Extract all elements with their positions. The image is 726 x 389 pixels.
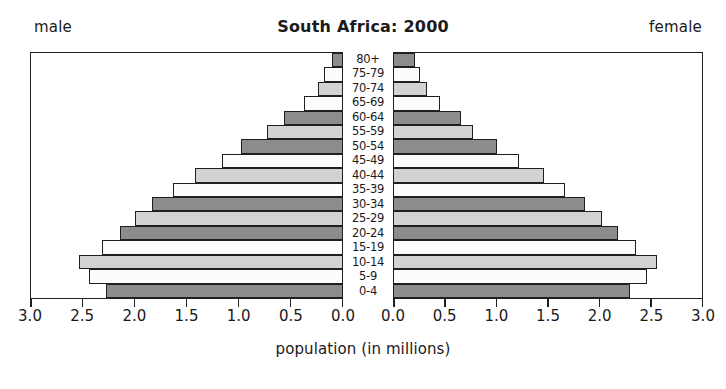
bar-male-25-29 xyxy=(135,211,342,225)
bar-male-70-74 xyxy=(318,82,342,96)
bar-row xyxy=(394,284,702,298)
tick-female-1.5 xyxy=(547,299,549,307)
bar-male-10-14 xyxy=(79,255,342,269)
chart-title: South Africa: 2000 xyxy=(0,17,726,36)
tick-label-male-1.0: 1.0 xyxy=(227,307,251,325)
male-bars-panel xyxy=(30,52,343,299)
bar-female-0-4 xyxy=(394,284,630,298)
bar-female-20-24 xyxy=(394,226,618,240)
bar-male-20-24 xyxy=(120,226,342,240)
bar-male-50-54 xyxy=(241,139,342,153)
bar-row xyxy=(31,53,342,67)
bar-row xyxy=(394,154,702,168)
bar-row xyxy=(394,168,702,182)
tick-label-male-3.0: 3.0 xyxy=(18,307,42,325)
tick-label-male-0.5: 0.5 xyxy=(279,307,303,325)
bar-row xyxy=(31,211,342,225)
tick-female-0.0 xyxy=(393,299,395,307)
population-pyramid-chart: male South Africa: 2000 female 80+75-797… xyxy=(0,0,726,389)
bar-male-0-4 xyxy=(106,284,342,298)
bar-row xyxy=(394,197,702,211)
tick-label-female-2.0: 2.0 xyxy=(588,307,612,325)
age-label-55-59: 55-59 xyxy=(343,125,393,140)
bar-row xyxy=(31,183,342,197)
age-label-75-79: 75-79 xyxy=(343,67,393,82)
bar-row xyxy=(394,255,702,269)
bar-male-30-34 xyxy=(152,197,342,211)
bar-row xyxy=(394,125,702,139)
bar-female-35-39 xyxy=(394,183,565,197)
tick-label-male-0.0: 0.0 xyxy=(331,307,355,325)
age-label-20-24: 20-24 xyxy=(343,226,393,241)
bar-female-75-79 xyxy=(394,67,420,81)
age-label-50-54: 50-54 xyxy=(343,139,393,154)
bar-row xyxy=(31,240,342,254)
bar-male-15-19 xyxy=(102,240,343,254)
tick-male-0.5 xyxy=(290,299,292,307)
age-label-0-4: 0-4 xyxy=(343,285,393,300)
bar-row xyxy=(31,284,342,298)
bar-female-45-49 xyxy=(394,154,519,168)
tick-female-0.5 xyxy=(444,299,446,307)
male-x-axis xyxy=(30,299,343,307)
bar-female-10-14 xyxy=(394,255,657,269)
bar-row xyxy=(31,82,342,96)
tick-label-female-0.0: 0.0 xyxy=(381,307,405,325)
age-label-15-19: 15-19 xyxy=(343,241,393,256)
tick-label-male-2.5: 2.5 xyxy=(70,307,94,325)
bar-female-55-59 xyxy=(394,125,473,139)
bar-row xyxy=(394,111,702,125)
bar-row xyxy=(394,226,702,240)
tick-male-2.0 xyxy=(134,299,136,307)
age-label-60-64: 60-64 xyxy=(343,110,393,125)
tick-male-3.0 xyxy=(30,299,32,307)
bar-row xyxy=(31,168,342,182)
age-label-65-69: 65-69 xyxy=(343,96,393,111)
age-label-70-74: 70-74 xyxy=(343,81,393,96)
age-label-80plus: 80+ xyxy=(343,52,393,67)
tick-label-female-0.5: 0.5 xyxy=(433,307,457,325)
tick-male-2.5 xyxy=(82,299,84,307)
bar-row xyxy=(394,269,702,283)
bar-row xyxy=(31,226,342,240)
bar-row xyxy=(394,139,702,153)
bar-female-60-64 xyxy=(394,111,461,125)
bar-row xyxy=(31,111,342,125)
bar-row xyxy=(394,82,702,96)
bar-row xyxy=(394,53,702,67)
tick-female-1.0 xyxy=(496,299,498,307)
tick-label-female-1.5: 1.5 xyxy=(536,307,560,325)
tick-male-0.0 xyxy=(342,299,344,307)
bar-male-75-79 xyxy=(324,67,342,81)
bar-row xyxy=(31,67,342,81)
bar-male-80plus xyxy=(332,53,342,67)
bar-male-40-44 xyxy=(195,168,342,182)
bar-female-15-19 xyxy=(394,240,636,254)
tick-label-female-3.0: 3.0 xyxy=(691,307,715,325)
bar-row xyxy=(394,240,702,254)
bar-row xyxy=(31,96,342,110)
bar-row xyxy=(394,96,702,110)
bar-row xyxy=(394,211,702,225)
bar-female-70-74 xyxy=(394,82,427,96)
bar-female-40-44 xyxy=(394,168,544,182)
bar-row xyxy=(31,125,342,139)
bar-row xyxy=(394,67,702,81)
tick-female-3.0 xyxy=(702,299,704,307)
age-label-10-14: 10-14 xyxy=(343,255,393,270)
tick-male-1.5 xyxy=(186,299,188,307)
age-label-5-9: 5-9 xyxy=(343,270,393,285)
age-label-25-29: 25-29 xyxy=(343,212,393,227)
bar-female-5-9 xyxy=(394,269,647,283)
bar-male-65-69 xyxy=(304,96,342,110)
bar-male-35-39 xyxy=(173,183,342,197)
bar-female-30-34 xyxy=(394,197,585,211)
tick-label-male-2.0: 2.0 xyxy=(122,307,146,325)
bar-row xyxy=(31,269,342,283)
female-x-axis xyxy=(393,299,703,307)
bar-male-5-9 xyxy=(89,269,342,283)
bar-row xyxy=(31,154,342,168)
tick-female-2.5 xyxy=(650,299,652,307)
bar-female-50-54 xyxy=(394,139,497,153)
age-label-35-39: 35-39 xyxy=(343,183,393,198)
